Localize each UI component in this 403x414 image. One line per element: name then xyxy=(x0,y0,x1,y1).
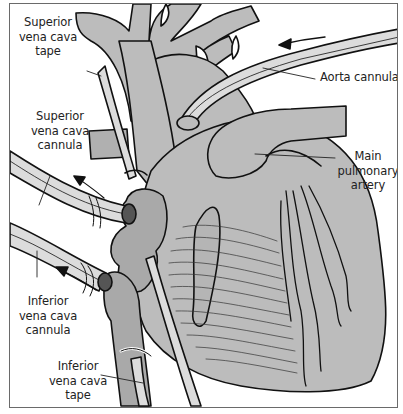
label-inferior-vena-cava-cannula: Inferior vena cava cannula xyxy=(13,294,83,338)
label-superior-vena-cava-tape: Superior vena cava tape xyxy=(13,15,83,59)
heart-illustration xyxy=(10,4,398,408)
label-main-pulmonary-artery: Main pulmonary artery xyxy=(328,149,398,193)
svc-cannula-tube xyxy=(10,151,126,223)
label-inferior-vena-cava-tape: Inferior vena cava tape xyxy=(43,359,113,403)
label-aorta-cannula: Aorta cannula xyxy=(320,70,398,85)
diagram-frame: Superior vena cava tape Superior vena ca… xyxy=(9,3,398,408)
ivc-cannula-tube xyxy=(10,223,106,291)
label-superior-vena-cava-cannula: Superior vena cava cannula xyxy=(24,109,96,153)
